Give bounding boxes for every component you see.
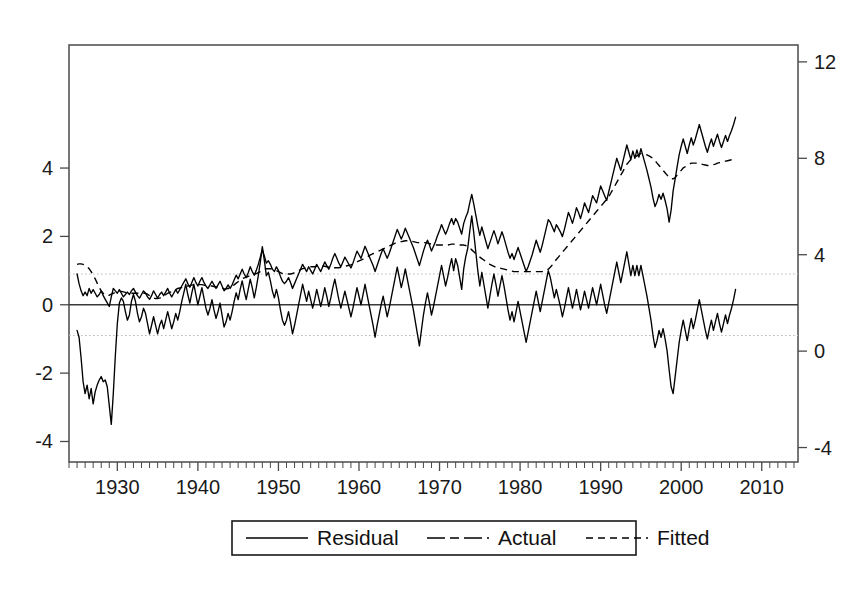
left-axis-tick-label: 4: [42, 157, 53, 179]
right-axis-tick-label: 0: [814, 340, 825, 362]
x-tick-label: 1930: [95, 476, 140, 498]
right-axis-tick-label: 4: [814, 244, 825, 266]
chart-background: [0, 0, 866, 593]
left-axis-tick-label: 0: [42, 294, 53, 316]
chart-container: 193019401950196019701980199020002010 420…: [0, 0, 866, 593]
left-axis-tick-label: -4: [35, 430, 53, 452]
x-tick-label: 1970: [417, 476, 462, 498]
right-axis-tick-label: 8: [814, 147, 825, 169]
x-tick-label: 1940: [176, 476, 221, 498]
x-tick-label: 1990: [578, 476, 623, 498]
x-tick-label: 2000: [659, 476, 704, 498]
right-axis-tick-label: -4: [814, 437, 832, 459]
x-tick-label: 1980: [498, 476, 543, 498]
residual-actual-fitted-chart: 193019401950196019701980199020002010 420…: [0, 0, 866, 593]
right-axis-tick-label: 12: [814, 51, 836, 73]
x-axis-tick-labels: 193019401950196019701980199020002010: [95, 476, 784, 498]
x-tick-label: 2010: [740, 476, 785, 498]
x-tick-label: 1950: [256, 476, 301, 498]
x-tick-label: 1960: [337, 476, 382, 498]
legend-label-actual: Actual: [498, 526, 556, 549]
legend-label-fitted: Fitted: [657, 526, 710, 549]
left-axis-tick-label: -2: [35, 362, 53, 384]
left-axis-tick-label: 2: [42, 225, 53, 247]
legend-label-residual: Residual: [317, 526, 399, 549]
